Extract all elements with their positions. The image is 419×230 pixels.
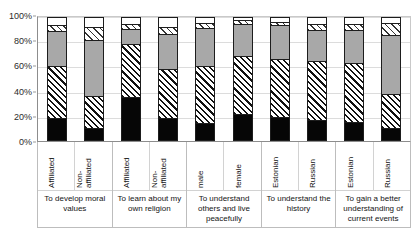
x-axis-group-title-text: To develop moral values — [38, 194, 112, 214]
x-axis-subcategory-label: Estonian — [346, 157, 355, 188]
bar-segment-gray — [122, 29, 140, 44]
y-axis-tick-label: 100% — [9, 12, 32, 21]
y-axis-tick-label: 80% — [14, 37, 32, 46]
x-axis-subcategory-label: female — [234, 164, 243, 188]
bar-slot — [261, 17, 298, 141]
bar-slot — [224, 17, 261, 141]
x-axis-group-title-text: To gain a better understanding of curren… — [336, 194, 410, 224]
y-axis: 0%20%40%60%80%100% — [0, 10, 36, 148]
x-axis-subcategory-cell: Affiliated — [113, 142, 150, 190]
bar-segment-gray — [382, 35, 400, 94]
x-axis-subcategory-cell: Russian — [374, 142, 410, 190]
stacked-bar[interactable] — [381, 17, 401, 141]
y-axis-tick-label: 40% — [14, 87, 32, 96]
bar-segment-gray — [196, 28, 214, 66]
bar-segment-gray — [85, 40, 103, 96]
bar-slot — [38, 17, 75, 141]
bar-segment-white — [48, 18, 66, 25]
bar-segment-hatch-light — [85, 27, 103, 40]
bar-segment-hatch — [234, 56, 252, 115]
bar-segment-hatch — [382, 94, 400, 128]
bar-segment-black — [382, 128, 400, 140]
x-axis-subcategory-cell: male — [187, 142, 224, 190]
y-axis-tick-label: 20% — [14, 112, 32, 121]
bar-slot — [336, 17, 373, 141]
bar-segment-gray — [48, 31, 66, 65]
bar-segment-hatch — [345, 63, 363, 122]
x-axis-subcategory-label: Russian — [383, 159, 392, 188]
bar-segment-black — [48, 118, 66, 140]
x-axis-subcategory-label: Russian — [308, 159, 317, 188]
x-axis-group: AffiliatedNon- affiliatedTo learn about … — [113, 142, 188, 227]
bar-segment-white — [85, 18, 103, 27]
bar-segment-hatch-light — [382, 23, 400, 35]
bar-segment-black — [345, 122, 363, 140]
stacked-bar[interactable] — [121, 17, 141, 141]
stacked-bar[interactable] — [307, 17, 327, 141]
x-axis-group-title: To understand others and live peacefully — [187, 190, 261, 227]
x-axis-group-title: To develop moral values — [38, 190, 112, 227]
bar-segment-black — [196, 123, 214, 140]
x-axis-subcategory-label: Affiliated — [122, 157, 131, 188]
x-axis-label-table: AffiliatedNon- affiliatedTo develop mora… — [37, 142, 411, 228]
bar-segment-gray — [159, 34, 177, 69]
stacked-bar[interactable] — [84, 17, 104, 141]
x-axis-group-title-text: To understand others and live peacefully — [187, 194, 261, 224]
bar-segment-gray — [308, 30, 326, 61]
bar-segment-black — [122, 97, 140, 140]
bar-segment-black — [308, 120, 326, 140]
x-axis-group: malefemaleTo understand others and live … — [187, 142, 262, 227]
bar-slot — [150, 17, 187, 141]
bar-slot — [112, 17, 149, 141]
bar-segment-hatch-light — [159, 27, 177, 34]
x-axis-group: EstonianRussianTo understand the history — [262, 142, 337, 227]
x-axis-subcategory-cell: Non- affiliated — [75, 142, 111, 190]
bar-segment-hatch — [122, 44, 140, 98]
stacked-bar[interactable] — [47, 17, 67, 141]
x-axis-subcategory-cell: Estonian — [262, 142, 299, 190]
x-axis-subcategory-cell: Non- affiliated — [150, 142, 186, 190]
stacked-bar[interactable] — [344, 17, 364, 141]
y-axis-tick-mark — [33, 142, 36, 143]
bar-segment-hatch — [159, 69, 177, 118]
x-axis-subcategory-cell: Estonian — [336, 142, 373, 190]
x-axis-subcategory-cell: female — [224, 142, 260, 190]
bar-slot — [187, 17, 224, 141]
x-axis-group-title-text: To learn about my own religion — [113, 194, 187, 214]
stacked-bar[interactable] — [233, 17, 253, 141]
bar-segment-black — [234, 114, 252, 140]
y-axis-tick-mark — [33, 41, 36, 42]
y-axis-tick-mark — [33, 116, 36, 117]
x-axis-group-title-text: To understand the history — [262, 194, 336, 214]
x-axis-group-title: To understand the history — [262, 190, 336, 227]
x-axis-subcategory-cell: Affiliated — [38, 142, 75, 190]
x-axis-subcategory-label: Non- affiliated — [75, 158, 93, 188]
stacked-bar[interactable] — [195, 17, 215, 141]
x-axis-group-title: To learn about my own religion — [113, 190, 187, 227]
plot-area — [37, 16, 411, 142]
x-axis-subcategory-label: male — [196, 171, 205, 188]
x-axis-subcategory-row: EstonianRussian — [336, 142, 410, 190]
y-axis-tick-mark — [33, 91, 36, 92]
stacked-bar[interactable] — [270, 17, 290, 141]
x-axis-subcategory-row: AffiliatedNon- affiliated — [113, 142, 187, 190]
x-axis-subcategory-label: Estonian — [271, 157, 280, 188]
bar-segment-gray — [345, 30, 363, 63]
stacked-bar-chart: 0%20%40%60%80%100% AffiliatedNon- affili… — [0, 0, 419, 230]
x-axis-subcategory-label: Non- affiliated — [150, 158, 168, 188]
bar-segment-hatch — [308, 61, 326, 121]
bar-segment-black — [85, 128, 103, 140]
x-axis-subcategory-row: EstonianRussian — [262, 142, 336, 190]
y-axis-tick-mark — [33, 16, 36, 17]
x-axis-subcategory-row: AffiliatedNon- affiliated — [38, 142, 112, 190]
bar-segment-gray — [234, 24, 252, 56]
bar-series-container — [38, 17, 410, 141]
bar-segment-black — [271, 117, 289, 140]
bar-segment-gray — [271, 25, 289, 59]
stacked-bar[interactable] — [158, 17, 178, 141]
bar-segment-hatch — [48, 66, 66, 118]
bar-segment-hatch — [271, 59, 289, 116]
bar-segment-hatch — [85, 96, 103, 128]
bar-segment-hatch — [196, 66, 214, 123]
bar-segment-black — [159, 118, 177, 140]
